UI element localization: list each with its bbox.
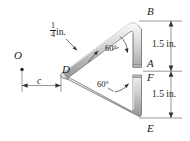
- rod-upper-segment: [63, 23, 142, 78]
- point-label-f: F: [147, 72, 154, 83]
- point-label-b: B: [147, 6, 154, 17]
- dimension-label-upper-height: 1.5 in.: [152, 40, 176, 50]
- figure-vector-graphic: [0, 0, 190, 141]
- angle-label-upper: 60°: [105, 44, 117, 53]
- angle-arc-lower: [108, 84, 129, 92]
- dimension-line-offset-c: [22, 70, 61, 93]
- dimension-extension-lines: [139, 21, 182, 118]
- dimension-label-rod-thickness: 1 4 in.: [50, 22, 66, 40]
- point-label-o: O: [14, 50, 22, 61]
- point-label-a: A: [147, 58, 154, 69]
- rod-gap-end-faces: [133, 65, 142, 78]
- thickness-unit: in.: [56, 27, 66, 37]
- dimension-label-lower-height: 1.5 in.: [152, 90, 176, 100]
- leader-thickness-callout: [66, 39, 78, 51]
- angle-label-lower: 60°: [97, 80, 109, 89]
- statics-bent-rod-figure: O D B A F E 1.5 in. 1.5 in. c 1 4 in. 60…: [0, 0, 190, 141]
- point-label-d: D: [62, 64, 70, 75]
- point-label-e: E: [147, 123, 154, 134]
- dimension-label-offset-c: c: [37, 77, 41, 87]
